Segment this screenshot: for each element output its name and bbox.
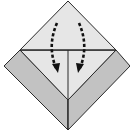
top-flap-triangle — [20, 1, 116, 50]
origami-diagram — [0, 0, 130, 134]
